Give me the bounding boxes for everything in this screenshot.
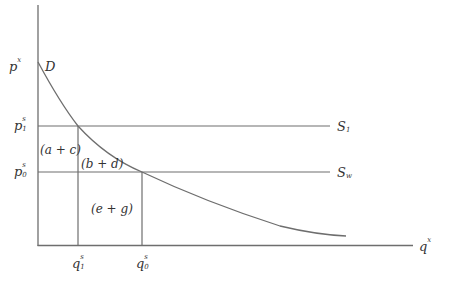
demand-curve [38,62,346,236]
quantity-label-q0: qs0 [136,257,144,270]
region-e-plus-g: (e + g) [91,203,133,215]
supply-label-s1: S1 [337,120,346,133]
region-a-plus-c: (a + c) [40,144,81,156]
supply-demand-diagram [0,0,453,282]
x-axis-label: qx [419,240,427,253]
y-axis-label: px [9,60,17,73]
quantity-label-q1: qs1 [72,257,80,270]
demand-label: D [45,60,55,73]
price-label-p1: ps1 [14,119,22,132]
supply-label-s0: Sw [337,166,346,179]
region-b-plus-d: (b + d) [81,158,123,170]
price-label-p0: ps0 [14,165,22,178]
